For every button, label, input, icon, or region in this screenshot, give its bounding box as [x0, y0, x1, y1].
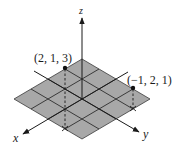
coordinate-diagram: x y z (2, 1, 3) (−1, 2, 1) — [0, 0, 184, 151]
z-axis-label: z — [78, 5, 83, 16]
x-axis-label: x — [12, 131, 19, 145]
point-label: (−1, 2, 1) — [127, 73, 172, 87]
y-axis-label: y — [142, 127, 149, 141]
point-dot — [63, 66, 67, 70]
point-label: (2, 1, 3) — [34, 51, 72, 65]
